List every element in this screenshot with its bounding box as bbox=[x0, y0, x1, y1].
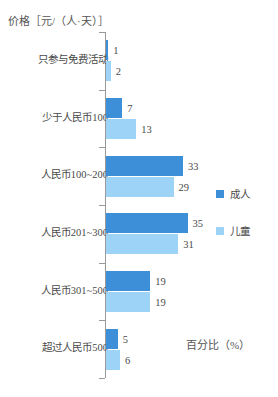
bar-value-label: 35 bbox=[188, 218, 204, 229]
bar-child[interactable] bbox=[106, 177, 174, 197]
category-label: 超过人民币500 bbox=[0, 343, 108, 354]
bar-child[interactable] bbox=[106, 119, 136, 139]
bar-value-label: 31 bbox=[178, 239, 194, 250]
bar-value-label: 6 bbox=[120, 354, 130, 365]
legend-item-adult: 成人 bbox=[216, 186, 250, 201]
bar-row-child: 6 bbox=[106, 350, 160, 370]
category-label: 人民币301~500 bbox=[0, 286, 108, 297]
bar-child[interactable] bbox=[106, 350, 120, 370]
axis-tick bbox=[99, 90, 105, 91]
bar-chart: 价格［元/（人·天）］ 只参与免费活动12少于人民币100713人民币100~2… bbox=[0, 0, 278, 397]
axis-tick bbox=[99, 320, 105, 321]
category-label: 少于人民币100 bbox=[0, 113, 108, 124]
legend-item-child: 儿童 bbox=[216, 223, 250, 238]
bar-row-adult: 33 bbox=[106, 156, 223, 176]
bar-value-label: 19 bbox=[150, 297, 166, 308]
legend-swatch-icon-adult bbox=[216, 190, 224, 198]
chart-legend: 成人 儿童 bbox=[216, 186, 250, 260]
axis-tick bbox=[99, 378, 105, 379]
bar-row-child: 13 bbox=[106, 119, 176, 139]
bar-adult[interactable] bbox=[106, 329, 118, 349]
axis-tick bbox=[99, 205, 105, 206]
value-axis-line bbox=[105, 32, 106, 378]
bar-value-label: 33 bbox=[183, 160, 199, 171]
category-label: 只参与免费活动 bbox=[0, 55, 108, 66]
bar-row-adult: 7 bbox=[106, 98, 162, 118]
bar-value-label: 7 bbox=[122, 103, 132, 114]
x-axis-title: 百分比（%） bbox=[186, 336, 250, 352]
bar-value-label: 2 bbox=[111, 66, 121, 77]
legend-label-child: 儿童 bbox=[230, 223, 250, 238]
bar-adult[interactable] bbox=[106, 98, 122, 118]
bar-row-child: 19 bbox=[106, 292, 190, 312]
bar-adult[interactable] bbox=[106, 271, 150, 291]
axis-tick bbox=[99, 263, 105, 264]
category-label: 人民币100~200 bbox=[0, 170, 108, 181]
bar-child[interactable] bbox=[106, 292, 150, 312]
legend-swatch-icon-child bbox=[216, 227, 224, 235]
bar-adult[interactable] bbox=[106, 213, 188, 233]
legend-label-adult: 成人 bbox=[230, 186, 250, 201]
axis-tick bbox=[99, 32, 105, 33]
bar-row-adult: 1 bbox=[106, 40, 148, 60]
axis-tick bbox=[99, 147, 105, 148]
bar-child[interactable] bbox=[106, 234, 178, 254]
bar-value-label: 29 bbox=[174, 181, 190, 192]
category-label: 人民币201~300 bbox=[0, 228, 108, 239]
bar-row-child: 29 bbox=[106, 177, 214, 197]
bar-row-child: 2 bbox=[106, 61, 151, 81]
bar-value-label: 19 bbox=[150, 276, 166, 287]
bar-value-label: 1 bbox=[108, 45, 118, 56]
bar-value-label: 5 bbox=[118, 333, 128, 344]
bar-row-adult: 5 bbox=[106, 329, 158, 349]
bar-adult[interactable] bbox=[106, 156, 183, 176]
bar-row-adult: 19 bbox=[106, 271, 190, 291]
bar-row-child: 31 bbox=[106, 234, 218, 254]
bar-row-adult: 35 bbox=[106, 213, 228, 233]
bar-value-label: 13 bbox=[136, 124, 152, 135]
